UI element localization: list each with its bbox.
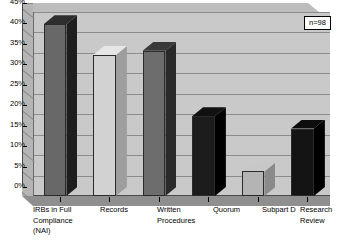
gridline bbox=[34, 73, 330, 74]
x-axis-tick-mark bbox=[307, 197, 308, 202]
bar-front bbox=[192, 116, 215, 196]
x-axis-tick-label: Research Review bbox=[300, 205, 348, 226]
bar-column bbox=[44, 15, 67, 196]
gridline bbox=[34, 135, 330, 136]
y-axis-line bbox=[22, 3, 23, 187]
bar-column bbox=[291, 120, 314, 196]
bar-column bbox=[93, 46, 116, 196]
bar-front bbox=[93, 55, 116, 196]
plot-area bbox=[33, 12, 330, 196]
x-axis-tick-mark bbox=[60, 197, 61, 202]
gridline bbox=[34, 155, 330, 156]
x-axis-tick-mark bbox=[109, 197, 110, 202]
gridline bbox=[34, 53, 330, 54]
x-axis-tick-mark bbox=[208, 197, 209, 202]
bar-chart: 0%5%10%15%20%25%30%35%40%45% IRBs in Ful… bbox=[0, 0, 348, 240]
gridline bbox=[34, 32, 330, 33]
bar-side bbox=[215, 107, 226, 196]
legend-n-box: n=98 bbox=[304, 16, 331, 30]
x-axis-tick-mark bbox=[159, 197, 160, 202]
bar-front bbox=[242, 171, 265, 196]
bar-column bbox=[242, 162, 265, 196]
gridline bbox=[34, 94, 330, 95]
bar-side bbox=[314, 120, 325, 196]
bar-side bbox=[165, 42, 176, 196]
bar-column bbox=[192, 107, 215, 196]
gridline bbox=[34, 12, 330, 13]
bar-side bbox=[116, 46, 127, 196]
bar-front bbox=[291, 129, 314, 196]
legend-n-label: n=98 bbox=[309, 18, 326, 27]
bar-column bbox=[143, 42, 166, 196]
x-axis-tick-label: IRBs in Full Compliance (NAI) bbox=[33, 205, 99, 237]
bar-side bbox=[66, 15, 77, 196]
gridline bbox=[34, 176, 330, 177]
bar-front bbox=[143, 51, 166, 196]
plot-top-wall bbox=[22, 3, 319, 12]
x-axis-tick-mark bbox=[258, 197, 259, 202]
gridline bbox=[34, 114, 330, 115]
bar-front bbox=[44, 24, 67, 196]
y-axis: 0%5%10%15%20%25%30%35%40%45% bbox=[0, 0, 31, 240]
